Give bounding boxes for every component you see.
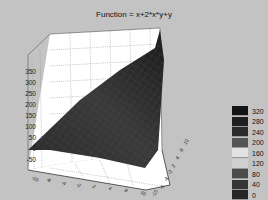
x-tick: 8 — [123, 187, 129, 194]
z-tick: 250 — [25, 90, 36, 97]
legend-item: 0 — [232, 190, 264, 200]
z-tick: 300 — [25, 79, 36, 86]
legend-item: 280 — [232, 117, 264, 128]
legend-label: 0 — [252, 192, 256, 199]
legend-item: 40 — [232, 180, 264, 191]
legend-label: 240 — [252, 129, 264, 136]
y-tick: 2 — [170, 163, 177, 169]
legend-label: 320 — [252, 108, 264, 115]
y-tick: 4 — [174, 155, 181, 161]
color-legend: 320 280 240 200 160 120 80 40 0 — [232, 106, 264, 200]
legend-item: 320 — [232, 106, 264, 117]
z-tick: 50 — [29, 134, 37, 141]
y-tick: 8 — [178, 147, 185, 153]
legend-swatch — [232, 180, 248, 190]
x-tick: 4 — [107, 185, 113, 192]
legend-swatch — [232, 190, 248, 200]
legend-item: 200 — [232, 138, 264, 149]
y-tick: 10 — [182, 137, 190, 145]
legend-item: 160 — [232, 148, 264, 159]
y-tick: -10 — [150, 188, 159, 198]
x-tick: -4 — [60, 179, 67, 187]
legend-swatch — [232, 159, 248, 169]
z-tick: 100 — [25, 123, 36, 130]
x-tick: -10 — [30, 174, 40, 183]
z-tick: -50 — [27, 156, 37, 163]
z-tick: 0 — [32, 145, 36, 152]
legend-item: 120 — [232, 159, 264, 170]
legend-label: 120 — [252, 160, 264, 167]
x-tick: 2 — [91, 183, 97, 190]
legend-swatch — [232, 148, 248, 158]
surface-plot: 350 300 250 200 150 100 50 0 -50 -10 -6 … — [0, 0, 268, 200]
legend-swatch — [232, 127, 248, 137]
legend-label: 280 — [252, 118, 264, 125]
z-tick: 150 — [25, 112, 36, 119]
legend-label: 200 — [252, 139, 264, 146]
z-tick: 350 — [25, 68, 36, 75]
legend-swatch — [232, 169, 248, 179]
legend-item: 80 — [232, 169, 264, 180]
legend-label: 80 — [252, 171, 260, 178]
legend-swatch — [232, 138, 248, 148]
legend-label: 160 — [252, 150, 264, 157]
legend-label: 40 — [252, 181, 260, 188]
legend-item: 240 — [232, 127, 264, 138]
x-tick: -6 — [45, 176, 52, 184]
legend-swatch — [232, 106, 248, 116]
x-tick: -2 — [75, 181, 82, 189]
z-tick: 200 — [25, 101, 36, 108]
legend-swatch — [232, 117, 248, 127]
